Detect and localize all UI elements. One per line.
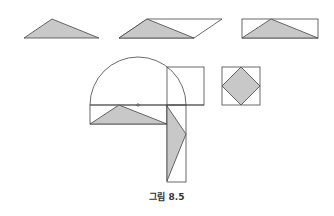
lower-shaded-triangle <box>90 105 167 124</box>
figure-caption: 그림 8.5 <box>0 190 334 203</box>
vertical-shaded-triangle <box>167 106 186 181</box>
diamond <box>222 67 260 105</box>
geometry-figure <box>0 0 334 216</box>
rectangle-shaded-triangle <box>242 19 318 38</box>
top-triangle <box>24 19 99 38</box>
semicircle <box>90 57 186 105</box>
parallelogram-shaded-triangle <box>119 19 194 38</box>
